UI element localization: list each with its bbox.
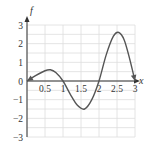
y-tick-label: 3 xyxy=(18,21,23,31)
y-tick-label: 2 xyxy=(18,39,23,49)
y-tick-label: −3 xyxy=(13,133,23,143)
y-tick-label: 1 xyxy=(18,58,23,68)
y-tick-label: −1 xyxy=(13,95,23,105)
y-tick-label: 0 xyxy=(18,77,23,87)
chart: 0.511.522.533210−1−2−3 f x xyxy=(0,0,146,146)
x-tick-label: 2.5 xyxy=(111,84,123,94)
x-axis-label: x xyxy=(138,75,144,86)
arrowheads xyxy=(27,75,136,81)
y-axis-label: f xyxy=(30,5,34,16)
x-tick-label: 3 xyxy=(133,84,138,94)
x-tick-label: 0.5 xyxy=(39,84,51,94)
y-tick-label: −2 xyxy=(13,114,23,124)
y-axis-arrow-icon xyxy=(25,16,30,22)
x-tick-label: 1.5 xyxy=(75,84,87,94)
